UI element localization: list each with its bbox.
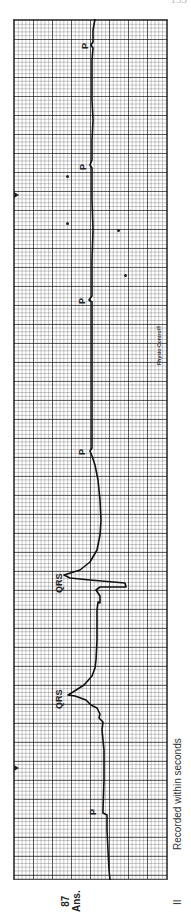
age-unit: Ans.	[71, 890, 82, 912]
brand-label: Physio-Control®	[156, 325, 162, 365]
speck-dot	[124, 274, 127, 277]
p-wave-label: P	[78, 164, 88, 170]
time-marker-icon	[14, 192, 19, 198]
qrs-complex-label: QRS	[54, 573, 64, 593]
p-wave-label: P	[80, 43, 90, 49]
strip-caption: Recorded within seconds	[172, 738, 183, 850]
speck-dot	[66, 222, 69, 225]
speck-dot	[66, 175, 69, 178]
p-wave-label: P	[77, 298, 87, 304]
ecg-grid-paper	[13, 19, 168, 880]
lead-label: II	[172, 899, 183, 905]
speck-dot	[117, 229, 120, 232]
age-value: 87	[60, 890, 71, 912]
time-marker-icon	[14, 765, 19, 771]
patient-age: 87 Ans.	[60, 890, 82, 912]
p-wave-label: P	[77, 449, 87, 455]
p-wave-label: P	[88, 809, 98, 815]
page-number: 133	[171, 0, 188, 5]
qrs-complex-label: QRS	[54, 689, 64, 709]
